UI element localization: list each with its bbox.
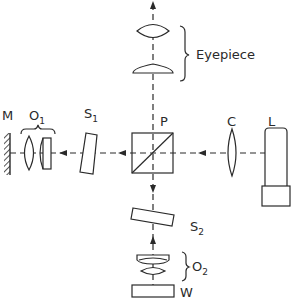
arrow-down-icon [150, 185, 156, 193]
optical-diagram [0, 0, 292, 302]
objective1-doublet [43, 138, 51, 169]
condenser-lens-c [228, 129, 236, 176]
arrow-up-icon [150, 236, 156, 244]
label-p: P [160, 115, 168, 128]
lamp-l [265, 128, 287, 186]
label-w: W [180, 286, 193, 299]
eyepiece-top-lens [137, 25, 169, 38]
arrow-up-icon [150, 1, 156, 9]
label-m: M [2, 109, 13, 122]
label-o2-base: O [192, 259, 202, 274]
arrow-left-icon [59, 150, 67, 156]
label-c: C [227, 115, 236, 128]
label-s1-sub: 1 [92, 114, 98, 124]
plate-s1 [80, 133, 97, 174]
label-s2: S2 [190, 220, 204, 233]
label-o2-sub: 2 [202, 267, 208, 277]
label-o1-base: O [29, 108, 39, 123]
objective2-brace [182, 252, 189, 281]
objective1-brace [21, 125, 55, 134]
mirror-m [4, 133, 10, 175]
label-s1: S1 [84, 107, 98, 120]
arrow-left-icon [118, 150, 126, 156]
objective1-lens [25, 136, 34, 170]
label-eyepiece: Eyepiece [196, 48, 255, 61]
arrow-left-icon [198, 150, 206, 156]
objective2-lens [141, 268, 165, 275]
plate-s2 [131, 208, 174, 226]
label-o1: O1 [29, 109, 45, 122]
label-s2-sub: 2 [198, 227, 204, 237]
eyepiece-brace [180, 26, 189, 81]
label-l: L [268, 115, 275, 128]
workpiece-w [132, 285, 174, 297]
eyepiece-bottom-lens [133, 64, 173, 73]
label-o1-sub: 1 [39, 116, 45, 126]
label-o2: O2 [192, 260, 208, 273]
lamp-base [262, 186, 290, 206]
